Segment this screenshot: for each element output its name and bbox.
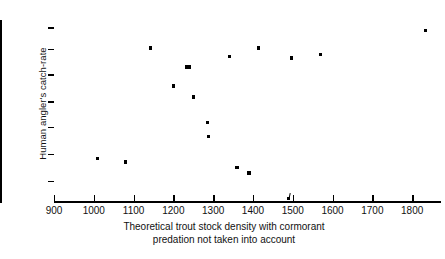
x-axis-tick-label-1400: 1400	[233, 205, 273, 216]
axis-overlap-marker	[288, 193, 291, 200]
y-axis-line	[0, 20, 2, 203]
data-point	[124, 160, 127, 163]
x-axis-tick-label-1600: 1600	[313, 205, 353, 216]
data-point	[96, 157, 99, 160]
x-axis-caption: Theoretical trout stock density with cor…	[54, 220, 394, 246]
data-point	[188, 65, 191, 68]
x-axis-tick-1100	[134, 195, 135, 202]
data-point	[207, 135, 210, 138]
caption-line-2: predation not taken into account	[54, 233, 394, 246]
data-point	[192, 95, 195, 98]
caption-line-1: Theoretical trout stock density with cor…	[54, 220, 394, 233]
data-point	[172, 84, 175, 87]
x-axis-tick-1400	[253, 195, 254, 202]
x-axis-tick-label-1700: 1700	[352, 205, 392, 216]
x-axis-tick-1000	[94, 195, 95, 202]
y-axis-tick-3	[48, 101, 54, 102]
x-axis-line	[54, 201, 441, 203]
y-axis-tick-0	[48, 181, 54, 182]
data-point	[424, 29, 427, 32]
x-axis-tick-label-1100: 1100	[114, 205, 154, 216]
data-point	[235, 166, 238, 169]
y-axis-tick-4	[48, 74, 54, 75]
x-axis-tick-1500	[293, 195, 294, 202]
scatter-plot-figure: Human angler's catch-rate 90010001100120…	[0, 0, 445, 259]
data-point	[319, 53, 322, 56]
data-point	[257, 46, 260, 49]
y-axis-tick-5	[48, 49, 54, 50]
x-axis-tick-1300	[213, 195, 214, 202]
data-point	[228, 55, 231, 58]
x-axis-tick-label-900: 900	[34, 205, 74, 216]
x-axis-tick-label-1200: 1200	[153, 205, 193, 216]
y-axis-tick-2	[48, 127, 54, 128]
y-axis-tick-6	[48, 27, 54, 28]
x-axis-tick-900	[54, 195, 55, 202]
x-axis-tick-label-1500: 1500	[273, 205, 313, 216]
x-axis-tick-1200	[173, 195, 174, 202]
data-point	[149, 46, 152, 49]
data-point	[290, 56, 293, 59]
data-point	[206, 121, 209, 124]
x-axis-tick-1700	[372, 195, 373, 202]
y-axis-label: Human angler's catch-rate	[37, 14, 48, 194]
x-axis-tick-1800	[412, 195, 413, 202]
data-point	[247, 171, 250, 174]
x-axis-tick-label-1300: 1300	[193, 205, 233, 216]
y-axis-tick-1	[48, 154, 54, 155]
x-axis-tick-1600	[333, 195, 334, 202]
x-axis-tick-label-1000: 1000	[74, 205, 114, 216]
x-axis-tick-label-1800: 1800	[392, 205, 432, 216]
